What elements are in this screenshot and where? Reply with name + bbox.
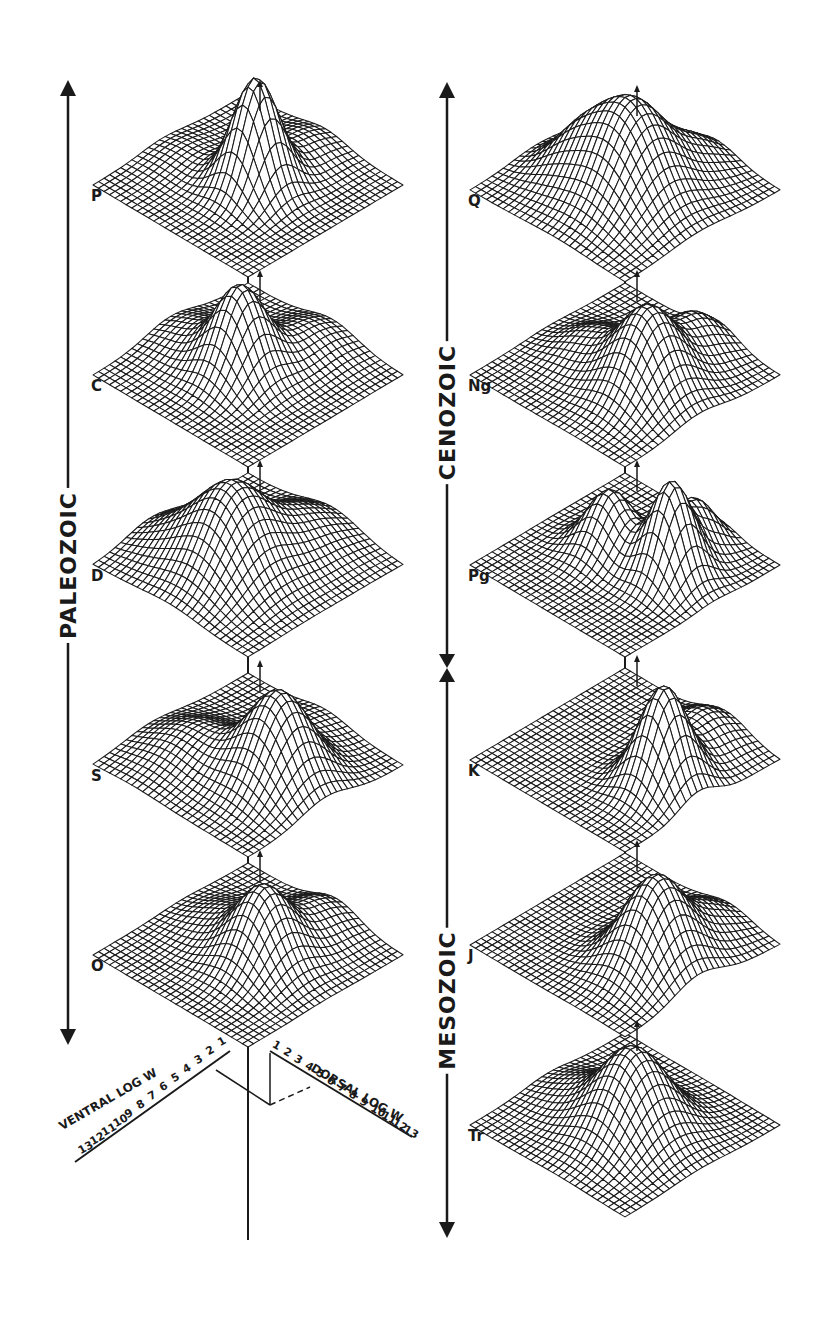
era-label-mesozoic: MESOZOIC [435,927,460,1073]
surface-panel-o [93,863,403,1047]
period-label-pg: Pg [468,569,490,584]
era-arrows [60,80,640,1238]
surface-panel-j [470,853,780,1037]
period-label-d: D [91,569,103,584]
surface-panel-ng [470,283,780,467]
surface-panel-k [470,668,780,852]
surface-panel-c [93,283,403,467]
ventral-tick: 5 [169,1070,182,1085]
era-label-cenozoic: CENOZOIC [435,340,460,483]
surface-panel-d [93,473,403,657]
ventral-tick: 8 [134,1097,147,1112]
period-label-q: Q [468,194,481,209]
period-label-k: K [468,764,480,779]
period-label-o: O [91,959,104,974]
period-label-p: P [91,189,102,204]
surface-panel-p [93,78,403,277]
surface-panel-pg [470,473,780,657]
stacked-surface-plot-figure: 1234567891011121312345678910111213 [0,0,832,1324]
period-label-tr: Tr [468,1129,484,1144]
ventral-tick: 4 [180,1061,193,1076]
period-label-c: C [91,379,102,394]
surface-panel-tr [470,1033,780,1217]
ventral-tick: 3 [192,1052,205,1067]
surface-panel-q [470,94,780,281]
surface-panel-s [93,673,403,857]
ventral-tick: 7 [146,1088,159,1103]
ventral-tick: 2 [204,1043,217,1058]
period-label-j: J [468,949,474,964]
ventral-tick: 1 [215,1034,228,1049]
period-label-ng: Ng [468,379,491,394]
ventral-tick: 6 [157,1079,170,1094]
era-label-paleozoic: PALEOZOIC [55,488,80,643]
dorsal-tick: 1 [270,1038,283,1053]
period-label-s: S [91,769,102,784]
